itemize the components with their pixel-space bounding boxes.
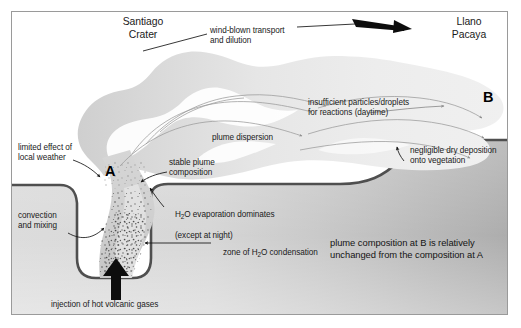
- label-injection-hot-volcanic-gases: injection of hot volcanic gases: [51, 300, 158, 310]
- label-stable-plume-composition: stable plumecomposition: [169, 158, 215, 178]
- evaporation-text-pre: H: [175, 210, 181, 219]
- label-summary-statement: plume composition at B is relativelyunch…: [330, 237, 483, 262]
- label-insufficient-particles: insufficient particles/dropletsfor react…: [308, 98, 409, 118]
- evaporation-text-post: O evaporation dominates: [184, 210, 274, 219]
- marker-label-a: A: [105, 164, 115, 179]
- label-wind-blown-transport: wind-blown transportand dilution: [210, 26, 285, 46]
- leader-wind-right: [297, 24, 355, 27]
- label-plume-dispersion: plume dispersion: [212, 133, 273, 143]
- label-negligible-dry-deposition: negligible dry depositiononto vegetation: [410, 146, 497, 166]
- wind-direction-arrow: [352, 19, 412, 33]
- label-convection-and-mixing: convectionand mixing: [18, 211, 57, 231]
- condensation-text-pre: zone of H: [223, 248, 258, 257]
- evaporation-subscript: 2: [181, 213, 185, 220]
- label-zone-h2o-condensation: zone of H2O condensation: [214, 238, 318, 269]
- condensation-text-post: O condensation: [261, 248, 318, 257]
- condensation-subscript: 2: [258, 251, 262, 258]
- label-limited-effect-local-weather: limited effect oflocal weather: [18, 143, 72, 163]
- marker-label-b: B: [483, 90, 493, 105]
- figure-root: SantiagoCrater LlanoPacaya wind-blown tr…: [0, 0, 521, 328]
- label-llano-pacaya: LlanoPacaya: [424, 16, 514, 41]
- label-santiago-crater: SantiagoCrater: [84, 16, 202, 41]
